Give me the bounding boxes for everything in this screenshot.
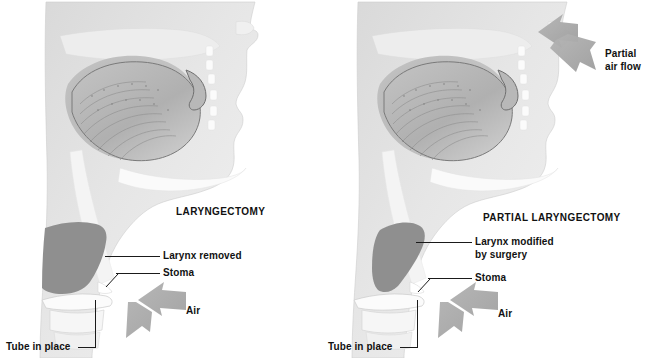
leader-line-tube-horizontal	[78, 347, 96, 348]
nasal-cavity	[372, 28, 532, 60]
label-stoma: Stoma	[475, 272, 506, 284]
label-larynx-removed: Larynx removed	[163, 250, 242, 262]
label-partial-air-flow-line1: Partial	[605, 48, 636, 60]
leader-line-tube-vertical	[95, 300, 96, 348]
laryngectomy-anatomy-illustration	[0, 0, 327, 358]
leader-line-tube-vertical	[417, 300, 418, 348]
leader-line-stoma	[428, 278, 472, 279]
figure-container: LARYNGECTOMY Larynx removed Stoma Air Tu…	[0, 0, 655, 358]
label-partial-air-flow-line2: air flow	[605, 61, 641, 73]
leader-line-tube-horizontal	[400, 347, 418, 348]
panel-partial-laryngectomy: Partial air flow PARTIAL LARYNGECTOMY La…	[328, 0, 655, 358]
leader-line-stoma-hook	[104, 273, 120, 289]
label-larynx-modified-line1: Larynx modified	[475, 236, 554, 248]
panel-title-partial-laryngectomy: PARTIAL LARYNGECTOMY	[483, 212, 621, 224]
label-larynx-modified-line2: by surgery	[475, 249, 527, 261]
panel-laryngectomy: LARYNGECTOMY Larynx removed Stoma Air Tu…	[0, 0, 327, 358]
leader-line-stoma	[116, 273, 160, 274]
label-tube-in-place: Tube in place	[328, 341, 392, 353]
panel-title-laryngectomy: LARYNGECTOMY	[176, 206, 265, 218]
label-tube-in-place: Tube in place	[6, 341, 70, 353]
air-arrow	[438, 282, 498, 338]
air-arrow	[126, 282, 186, 338]
label-stoma: Stoma	[163, 267, 194, 279]
label-air: Air	[498, 308, 512, 320]
leader-line-larynx-modified	[416, 242, 472, 243]
leader-line-larynx-removed	[105, 256, 160, 257]
leader-line-stoma-hook	[416, 278, 432, 294]
label-air: Air	[186, 305, 200, 317]
nasal-cavity	[60, 28, 220, 60]
